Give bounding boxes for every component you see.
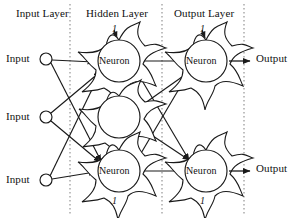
input-node-3: [40, 174, 52, 186]
input-node-1: [40, 53, 52, 65]
bias-label-output-bottom: 1: [200, 196, 205, 206]
output-label-1: Output: [256, 53, 287, 64]
hidden-neuron-bottom-label: Neuron: [99, 166, 130, 176]
bias-label-output-top: 1: [200, 24, 205, 34]
network-graphic: [0, 0, 306, 218]
bias-label-hidden-bottom: 1: [112, 196, 117, 206]
bias-label-hidden-top: 1: [112, 24, 117, 34]
hidden-neuron-top-label: Neuron: [99, 56, 130, 66]
output-label-2: Output: [256, 163, 287, 174]
output-layer-title: Output Layer: [174, 8, 234, 19]
output-neuron-top-label: Neuron: [186, 56, 217, 66]
neural-network-diagram: Input Layer Hidden Layer Output Layer In…: [0, 0, 306, 218]
output-neuron-bottom-label: Neuron: [186, 166, 217, 176]
input-label-2: Input: [6, 111, 30, 122]
hidden-neuron-middle-body: [98, 96, 140, 138]
input-nodes: [40, 53, 52, 186]
input-label-3: Input: [6, 174, 30, 185]
input-node-2: [40, 111, 52, 123]
hidden-layer-title: Hidden Layer: [86, 8, 148, 19]
input-label-1: Input: [6, 53, 30, 64]
input-layer-title: Input Layer: [16, 8, 69, 19]
